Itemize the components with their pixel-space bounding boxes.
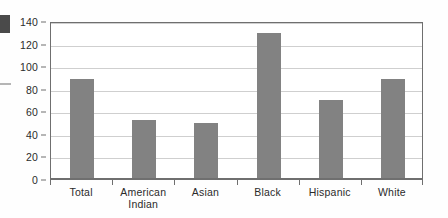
- y-axis-tick-label: 60: [26, 106, 38, 118]
- bar-slot: [300, 23, 362, 179]
- x-axis-category-label: Total: [50, 186, 112, 198]
- x-axis-category-line: Hispanic: [299, 186, 361, 198]
- x-axis-category-label: White: [361, 186, 423, 198]
- y-axis-tick-label: 40: [26, 129, 38, 141]
- bar-slot: [175, 23, 237, 179]
- x-axis-category-label: AmericanIndian: [112, 186, 174, 210]
- x-axis-tick: [112, 180, 113, 185]
- y-axis-tick: [41, 112, 46, 113]
- x-axis-category-line: Asian: [174, 186, 236, 198]
- bar[interactable]: [70, 79, 94, 179]
- chart-page: 020406080100120140 TotalAmericanIndianAs…: [0, 0, 448, 218]
- bar-slot: [113, 23, 175, 179]
- y-axis-tick-label: 100: [20, 61, 38, 73]
- x-axis-category-label: Asian: [174, 186, 236, 198]
- x-axis-category-line: Total: [50, 186, 112, 198]
- y-axis-tick: [41, 89, 46, 90]
- x-axis-tick: [299, 180, 300, 185]
- x-axis-tick: [174, 180, 175, 185]
- y-axis-tick-label: 0: [32, 174, 38, 186]
- y-axis-tick: [41, 180, 46, 181]
- x-axis-category-label: Black: [237, 186, 299, 198]
- x-axis-category-line: White: [361, 186, 423, 198]
- x-axis-category-line: Black: [237, 186, 299, 198]
- bar-slot: [238, 23, 300, 179]
- bar-slot: [51, 23, 113, 179]
- y-axis-tick: [41, 157, 46, 158]
- bar[interactable]: [257, 33, 281, 179]
- y-axis-tick-label: 140: [20, 16, 38, 28]
- y-axis-tick: [41, 44, 46, 45]
- bar[interactable]: [132, 120, 156, 179]
- y-axis: 020406080100120140: [6, 22, 46, 180]
- x-axis-labels: TotalAmericanIndianAsianBlackHispanicWhi…: [50, 186, 423, 216]
- x-axis-tick: [50, 180, 51, 185]
- bar-slot: [362, 23, 424, 179]
- y-axis-tick: [41, 22, 46, 23]
- bar[interactable]: [194, 123, 218, 179]
- x-axis-tick: [422, 180, 423, 185]
- y-axis-tick-label: 20: [26, 151, 38, 163]
- y-axis-tick: [41, 67, 46, 68]
- bar[interactable]: [381, 79, 405, 179]
- y-axis-tick-label: 80: [26, 84, 38, 96]
- x-axis-category-line: Indian: [112, 198, 174, 210]
- x-axis-category-line: American: [112, 186, 174, 198]
- bar-series: [51, 23, 422, 179]
- bar-chart: 020406080100120140: [50, 22, 423, 180]
- plot-area: [50, 22, 423, 180]
- x-axis-tick: [237, 180, 238, 185]
- x-axis-category-label: Hispanic: [299, 186, 361, 198]
- y-axis-tick: [41, 134, 46, 135]
- bar[interactable]: [319, 100, 343, 179]
- x-axis-tick: [361, 180, 362, 185]
- y-axis-tick-label: 120: [20, 39, 38, 51]
